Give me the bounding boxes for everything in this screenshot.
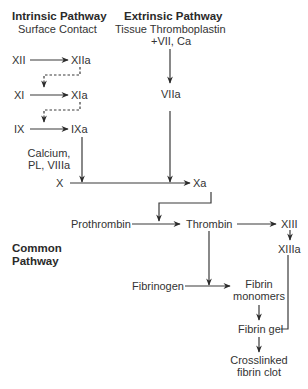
node-XIIIa: XIIIa [278, 243, 301, 255]
common-pathway-label-2: Pathway [12, 255, 59, 267]
intrinsic-pathway-subtitle: Surface Contact [18, 23, 97, 35]
node-IX: IX [14, 123, 24, 135]
node-XIIa: XIIa [71, 54, 91, 66]
node-VIIa: VIIa [161, 88, 181, 100]
node-fibrin-monomers-1: Fibrin [232, 278, 286, 290]
common-pathway-label-1: Common [12, 242, 62, 254]
extrinsic-pathway-subtitle: Tissue Thromboplastin [115, 23, 226, 35]
node-thrombin: Thrombin [186, 218, 232, 230]
node-Xa: Xa [193, 177, 206, 189]
node-IXa: IXa [71, 123, 88, 135]
node-XIII: XIII [281, 218, 298, 230]
node-fibrinogen: Fibrinogen [132, 280, 184, 292]
node-XIa: XIa [71, 89, 88, 101]
node-X: X [56, 177, 63, 189]
extrinsic-cofactors: +VII, Ca [151, 35, 191, 47]
extrinsic-pathway-title: Extrinsic Pathway [124, 10, 222, 22]
node-crosslinked-clot-2: fibrin clot [226, 366, 292, 378]
node-XII: XII [12, 54, 25, 66]
node-XI: XI [14, 89, 24, 101]
cofactor-label-1: Calcium, [26, 147, 72, 159]
node-prothrombin: Prothrombin [71, 218, 131, 230]
cofactor-label-2: PL, VIIIa [26, 159, 72, 171]
node-crosslinked-clot-1: Crosslinked [226, 354, 292, 366]
node-fibrin-gel: Fibrin gel [238, 323, 283, 335]
intrinsic-pathway-title: Intrinsic Pathway [12, 10, 107, 22]
node-fibrin-monomers-2: monomers [232, 290, 286, 302]
